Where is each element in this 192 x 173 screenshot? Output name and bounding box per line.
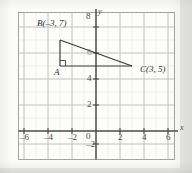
x-tick-label--2: –2 [68, 133, 77, 142]
y-tick-label--2: –2 [86, 140, 95, 149]
x-tick-label--4: –4 [44, 133, 53, 142]
y-tick-label-6: 6 [87, 48, 92, 57]
x-tick-label-2: 2 [118, 133, 123, 142]
y-tick-label-8: 8 [86, 12, 91, 21]
point-label-c: C(3, 5) [140, 65, 166, 74]
y-axis-label: y [98, 8, 102, 16]
x-tick-label-6: 6 [166, 133, 171, 142]
coordinate-plane-figure: –6 –4 –2 0 2 4 6 –2 2 4 6 8 x y B(–3, 7)… [0, 0, 192, 173]
x-tick-label-4: 4 [142, 133, 147, 142]
point-label-b: B(–3, 7) [37, 19, 67, 28]
plot-svg [0, 0, 192, 173]
y-tick-label-4: 4 [87, 74, 92, 83]
x-axis-label: x [180, 124, 184, 132]
y-tick-label-2: 2 [87, 100, 92, 109]
point-label-a: A [54, 68, 60, 77]
x-tick-label--6: –6 [20, 133, 29, 142]
